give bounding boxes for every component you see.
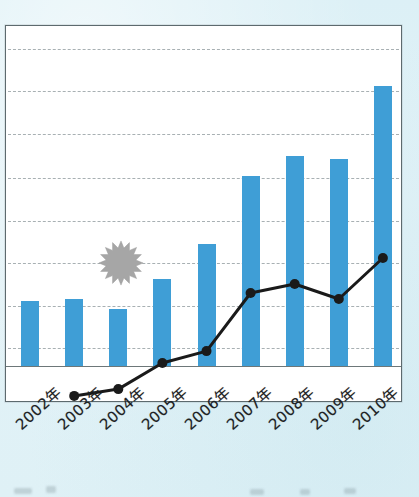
bar-2008 [286,156,304,366]
gridline [8,134,399,135]
gridline [8,91,399,92]
x-axis-baseline [6,366,401,367]
chart-figure [5,25,402,402]
starburst-annotation-icon [98,240,144,286]
page-artifact [344,488,356,494]
bar-2004 [109,309,127,366]
page-artifact [300,489,310,495]
gridline [8,49,399,50]
page-artifact [14,488,32,494]
bar-2006 [198,244,216,366]
x-axis-label-group: 2002年 2003年 2004年 2005年 2006年 2007年 2008… [0,402,419,497]
page-artifact [46,486,56,493]
bar-2002 [21,301,39,366]
bar-2009 [330,159,348,366]
bar-2003 [65,299,83,366]
bar-2010 [374,86,392,366]
bar-2005 [153,279,171,366]
bar-2007 [242,176,260,366]
plot-area [6,26,401,366]
page-artifact [250,489,264,495]
